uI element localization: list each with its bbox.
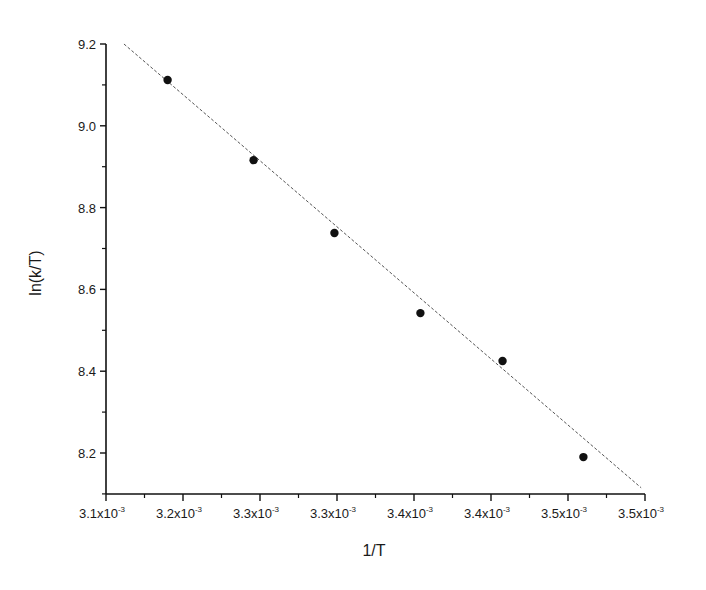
x-tick-label: 3.4x10-3 <box>464 505 511 521</box>
y-tick-label: 8.6 <box>78 282 96 297</box>
x-tick-label: 3.4x10-3 <box>387 505 434 521</box>
x-axis: 3.1x10-33.2x10-33.3x10-33.3x10-33.4x10-3… <box>79 494 665 521</box>
y-tick-label: 9.0 <box>78 119 96 134</box>
data-point <box>330 229 338 237</box>
data-point <box>416 309 424 317</box>
x-tick-label: 3.2x10-3 <box>156 505 203 521</box>
x-axis-title: 1/T <box>362 542 385 559</box>
x-tick-label: 3.1x10-3 <box>79 505 126 521</box>
data-point <box>163 76 171 84</box>
x-tick-label: 3.3x10-3 <box>310 505 357 521</box>
y-axis-title: ln(k/T) <box>27 250 44 295</box>
x-tick-label: 3.3x10-3 <box>233 505 280 521</box>
y-tick-label: 8.8 <box>78 201 96 216</box>
x-tick-label: 3.5x10-3 <box>541 505 588 521</box>
data-point <box>579 453 587 461</box>
y-tick-label: 8.2 <box>78 446 96 461</box>
x-tick-label: 3.5x10-3 <box>618 505 665 521</box>
plot-area <box>124 44 641 488</box>
y-tick-label: 8.4 <box>78 364 96 379</box>
data-point <box>249 156 257 164</box>
y-axis: 8.28.48.68.89.09.2 <box>78 37 106 494</box>
y-tick-label: 9.2 <box>78 37 96 52</box>
data-point <box>498 357 506 365</box>
chart-canvas: 8.28.48.68.89.09.2 3.1x10-33.2x10-33.3x1… <box>0 0 706 590</box>
fit-line <box>124 44 641 488</box>
